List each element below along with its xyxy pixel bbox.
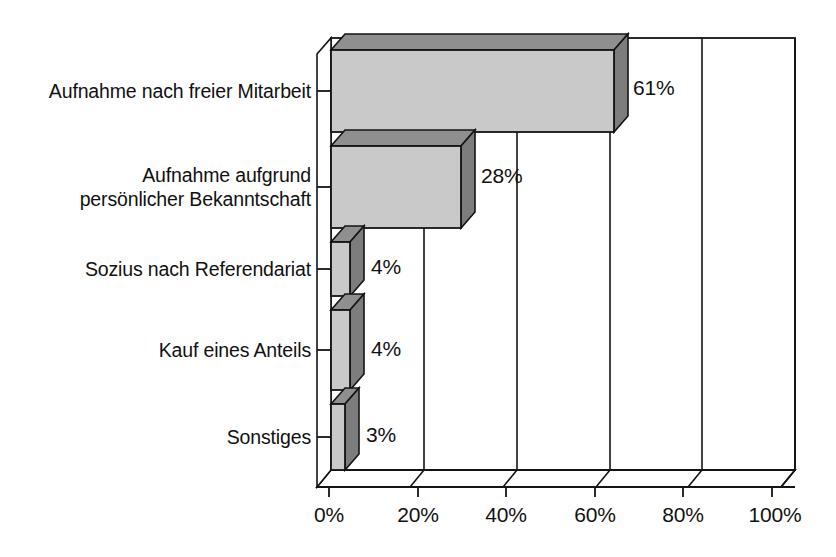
value-label-5: 3% xyxy=(366,424,396,446)
bar-3d-4[interactable] xyxy=(331,294,364,390)
bar-1-front-face xyxy=(331,50,614,132)
category-label-4-line1: Kauf eines Anteils xyxy=(159,339,311,361)
xtick-label-20: 20% xyxy=(397,503,438,527)
category-label-2-line1: Aufnahme aufgrund xyxy=(142,164,311,186)
bar-5-front-face xyxy=(331,404,345,470)
bar-2-front-face xyxy=(331,146,461,228)
category-label-1: Aufnahme nach freier Mitarbeit xyxy=(11,79,311,103)
bar-3-front-face xyxy=(331,242,350,296)
floor-plane xyxy=(317,470,795,487)
bar-1-top-face xyxy=(331,34,628,50)
bar-1-side-face xyxy=(614,34,628,132)
category-label-5-line1: Sonstiges xyxy=(227,426,311,448)
bar-3d-2[interactable] xyxy=(331,130,475,228)
bar-3d-1[interactable] xyxy=(331,34,628,132)
category-label-3: Sozius nach Referendariat xyxy=(11,257,311,281)
x-axis-ticks xyxy=(329,487,772,497)
xtick-label-80: 80% xyxy=(662,503,703,527)
xtick-label-0: 0% xyxy=(314,503,344,527)
bar-3d-5[interactable] xyxy=(331,388,359,470)
chart-canvas: Aufnahme nach freier Mitarbeit Aufnahme … xyxy=(0,0,836,557)
bar-4-front-face xyxy=(331,310,350,390)
category-label-2-line2: persönlicher Bekanntschaft xyxy=(80,188,311,210)
x-axis xyxy=(317,487,795,497)
xtick-label-40: 40% xyxy=(485,503,526,527)
value-label-2: 28% xyxy=(481,165,522,187)
value-label-1: 61% xyxy=(633,77,674,99)
xtick-label-100: 100% xyxy=(749,503,802,527)
category-label-1-line1: Aufnahme nach freier Mitarbeit xyxy=(49,80,311,102)
category-label-5: Sonstiges xyxy=(11,425,311,449)
bar-4-side-face xyxy=(350,294,364,390)
left-wall xyxy=(317,38,331,487)
bar-3d-3[interactable] xyxy=(331,226,364,296)
value-label-3: 4% xyxy=(371,256,401,278)
category-label-4: Kauf eines Anteils xyxy=(11,338,311,362)
category-label-3-line1: Sozius nach Referendariat xyxy=(85,258,311,280)
xtick-label-60: 60% xyxy=(574,503,615,527)
bar-2-side-face xyxy=(461,130,475,228)
value-label-4: 4% xyxy=(371,338,401,360)
bar-2-top-face xyxy=(331,130,475,146)
category-label-2: Aufnahme aufgrundpersönlicher Bekanntsch… xyxy=(0,163,311,211)
